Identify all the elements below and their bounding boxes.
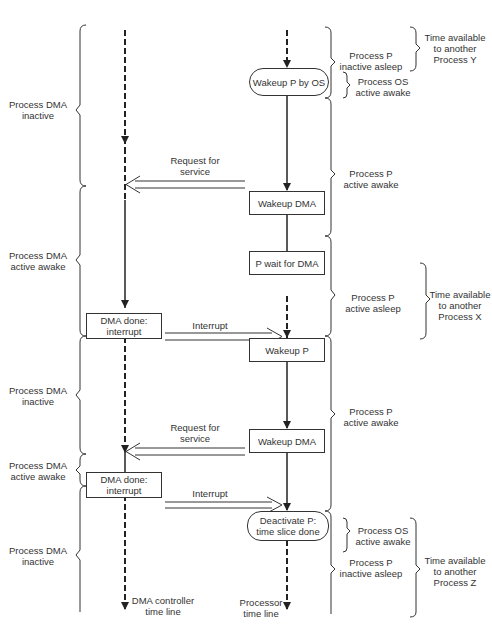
right-state-p-inactive-asleep-2: Process Pinactive asleep	[336, 557, 406, 579]
left-brace-3	[76, 336, 86, 454]
right-state-p-inactive-asleep-1: Process Pinactive asleep	[336, 50, 406, 72]
right-state-p-active-awake-2: Process Pactive awake	[336, 406, 406, 428]
left-state-1: Process DMAinactive	[4, 99, 72, 121]
timing-diagram-lines	[0, 0, 492, 628]
interrupt-label-2: Interrupt	[180, 488, 240, 499]
box-wakeup-p: Wakeup P	[249, 338, 325, 362]
left-state-4: Process DMAactive awake	[4, 460, 72, 482]
box-label: Deactivate P:	[260, 515, 317, 526]
left-brace-4	[76, 454, 86, 486]
dma-timeline-label: DMA controllertime line	[128, 595, 198, 617]
left-state-2: Process DMAactive awake	[4, 250, 72, 272]
box-deactivate-p: Deactivate P:time slice done	[247, 511, 329, 541]
time-available-process-y: Time availableto anotherProcess Y	[418, 32, 492, 65]
box-dma-done-interrupt-1: DMA done:interrupt	[86, 313, 162, 339]
box-dma-done-interrupt-2: DMA done:interrupt	[86, 472, 162, 498]
request-arrow-2	[126, 443, 245, 460]
interrupt-label-1: Interrupt	[180, 320, 240, 331]
box-label: DMA done:	[101, 474, 148, 485]
right-brace-4	[325, 236, 335, 336]
box-label: Wakeup P	[265, 345, 308, 356]
left-state-3: Process DMAinactive	[4, 385, 72, 407]
box-label: DMA done:	[101, 315, 148, 326]
left-state-5: Process DMAinactive	[4, 545, 72, 567]
time-available-process-x: Time availableto anotherProcess X	[428, 289, 492, 322]
time-available-process-z: Time availableto anotherProcess Z	[418, 555, 492, 588]
box-label: Wakeup DMA	[258, 436, 316, 447]
box-wakeup-p-by-os: Wakeup P by OS	[249, 68, 329, 96]
request-label-2: Request forservice	[160, 422, 230, 444]
box-wakeup-dma-2: Wakeup DMA	[249, 429, 325, 453]
box-label: P wait for DMA	[255, 258, 318, 269]
right-brace-6	[343, 518, 350, 552]
left-brace-2	[76, 186, 86, 336]
right-state-p-active-asleep: Process Pactive asleep	[338, 292, 408, 314]
right-state-os-active-awake-1: Process OSactive awake	[353, 76, 413, 98]
left-brace-1	[76, 25, 86, 186]
box-p-wait-for-dma: P wait for DMA	[249, 251, 325, 275]
box-label: interrupt	[107, 485, 142, 496]
right-state-p-active-awake-1: Process Pactive awake	[336, 168, 406, 190]
box-label: Wakeup P by OS	[253, 77, 325, 88]
right-brace-2	[343, 72, 350, 98]
box-label: time slice done	[256, 526, 319, 537]
request-label-1: Request forservice	[160, 155, 230, 177]
request-arrow-1	[126, 176, 245, 193]
processor-timeline-label: Processortime line	[238, 597, 284, 619]
box-wakeup-dma-1: Wakeup DMA	[249, 191, 325, 215]
right-brace-3	[325, 98, 335, 236]
left-brace-5	[76, 486, 86, 612]
right-state-os-active-awake-2: Process OSactive awake	[353, 525, 413, 547]
right-brace-5	[325, 336, 335, 511]
box-label: interrupt	[107, 326, 142, 337]
box-label: Wakeup DMA	[258, 198, 316, 209]
